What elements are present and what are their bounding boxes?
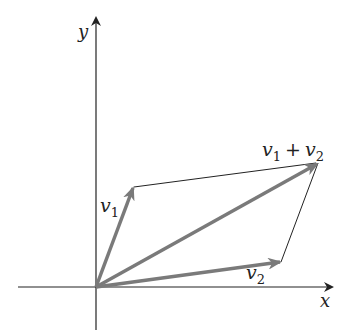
- x-axis-label: x: [320, 290, 330, 311]
- v1-label: v1: [100, 194, 119, 220]
- vector-sum: [96, 164, 317, 287]
- edge-v1-to-sum: [134, 163, 316, 187]
- vector-diagram: y x v1 v2 v1+v2: [0, 0, 355, 335]
- y-axis-label: y: [77, 21, 89, 42]
- sum-label: v1+v2: [262, 138, 324, 164]
- edge-v2-to-sum: [281, 163, 318, 262]
